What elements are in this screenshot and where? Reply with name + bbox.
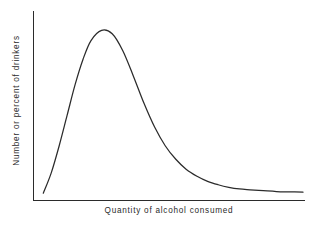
y-axis-label-container: Number or percent of drinkers xyxy=(0,0,33,201)
axes-group xyxy=(34,11,306,201)
distribution-curve-plot xyxy=(0,0,327,231)
chart-figure: Number or percent of drinkers Quantity o… xyxy=(0,0,327,231)
x-axis-label: Quantity of alcohol consumed xyxy=(33,206,305,215)
y-axis-label: Number or percent of drinkers xyxy=(12,35,21,166)
data-series-group xyxy=(43,30,303,193)
distribution-curve-line xyxy=(43,30,303,193)
